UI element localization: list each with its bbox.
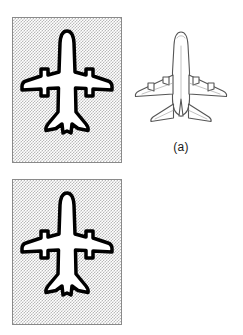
figure-row-a: (a): [0, 0, 243, 168]
aircraft-silhouette-a: [19, 26, 115, 154]
aircraft-line-drawing-a: [131, 24, 231, 134]
gray-stipple-panel-b: [12, 179, 122, 325]
caption-a: (a): [131, 140, 231, 154]
aircraft-silhouette-b: [19, 188, 115, 316]
figure-row-b: (b): [0, 162, 243, 335]
figure-container: (a): [0, 0, 243, 335]
gray-stipple-panel-a: [12, 17, 122, 163]
